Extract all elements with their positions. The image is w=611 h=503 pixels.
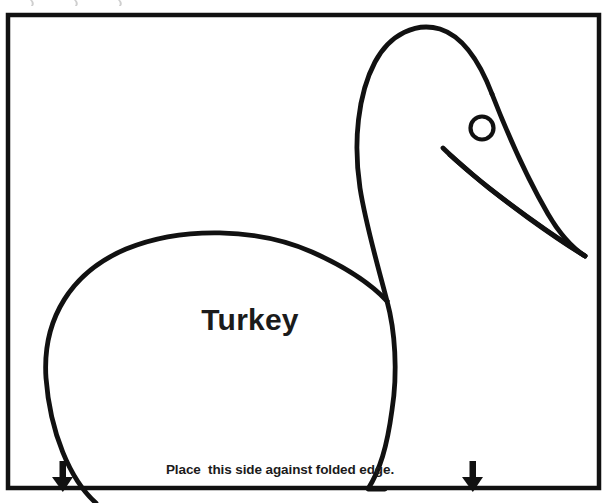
printable-template-page: Turkey Place this side against folded ed… bbox=[0, 0, 611, 503]
page-title: Turkey bbox=[0, 303, 500, 337]
turkey-template-artwork bbox=[0, 0, 611, 503]
fold-instruction-text: Place this side against folded edge. bbox=[0, 462, 560, 477]
page-border bbox=[8, 15, 599, 488]
turkey-outline bbox=[46, 27, 585, 503]
turkey-eye-icon bbox=[471, 117, 494, 140]
turkey-beak-wedge bbox=[443, 148, 585, 256]
